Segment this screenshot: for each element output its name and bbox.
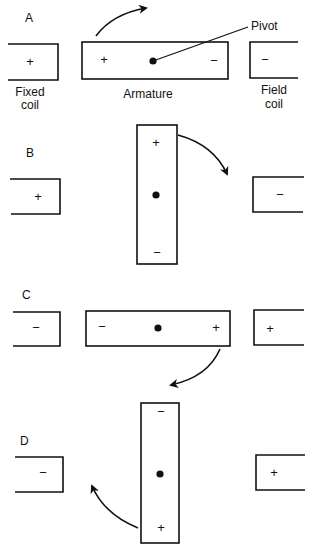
fixed-coil-sign: + — [34, 189, 42, 204]
armature-bottom-sign: + — [157, 520, 165, 535]
rotation-arrow-icon — [92, 486, 138, 528]
field-coil — [254, 310, 304, 345]
rotation-arrow-icon — [171, 349, 220, 385]
panel-a: A + + − Pivot − Fixed coil Armature Fiel… — [8, 8, 298, 112]
panel-b-label: B — [26, 146, 34, 160]
field-coil-caption-line1: Field — [261, 83, 287, 97]
armature-right-sign: − — [210, 53, 218, 68]
field-coil — [256, 455, 305, 490]
rotation-arrow-icon — [96, 8, 146, 36]
field-coil — [250, 42, 298, 78]
fixed-coil-sign: − — [39, 465, 47, 480]
panel-d-label: D — [20, 434, 29, 448]
pivot-dot — [156, 470, 163, 477]
field-coil-sign: − — [276, 187, 284, 202]
armature-caption: Armature — [123, 87, 173, 101]
panel-c: C − − + + — [13, 288, 304, 385]
panel-a-label: A — [25, 11, 33, 25]
pivot-leader-line — [153, 27, 248, 61]
armature-top-sign: + — [152, 135, 160, 150]
pivot-dot — [154, 324, 161, 331]
field-coil-sign: + — [270, 465, 278, 480]
armature-left-sign: + — [100, 52, 108, 67]
armature-right-sign: + — [212, 320, 220, 335]
armature-diagram: A + + − Pivot − Fixed coil Armature Fiel… — [0, 0, 314, 551]
fixed-coil-sign: − — [32, 320, 40, 335]
fixed-coil-caption-line2: coil — [21, 98, 39, 112]
fixed-coil-caption-line1: Fixed — [15, 85, 44, 99]
field-coil-sign: + — [266, 321, 274, 336]
pivot-label: Pivot — [251, 19, 278, 33]
field-coil-sign: − — [261, 52, 269, 67]
panel-b: B + + − − — [10, 125, 304, 264]
field-coil-caption-line2: coil — [265, 97, 283, 111]
pivot-dot — [152, 191, 159, 198]
fixed-coil-sign: + — [26, 54, 34, 69]
panel-c-label: C — [22, 288, 31, 302]
panel-d: D − − + + — [15, 403, 305, 543]
armature-left-sign: − — [98, 319, 106, 334]
armature-bottom-sign: − — [153, 245, 161, 260]
rotation-arrow-icon — [178, 135, 227, 174]
armature-top-sign: − — [157, 404, 165, 419]
